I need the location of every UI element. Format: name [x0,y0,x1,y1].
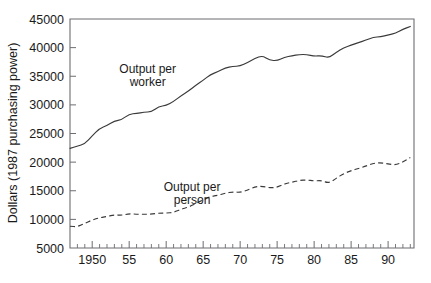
x-tick-label: 60 [159,253,173,267]
x-axis-tick-labels: 19505560657075808590 [78,253,395,267]
series-line-output-per-person [70,158,410,227]
series-annotations: Output perworkerOutput perperson [119,62,220,208]
y-tick-label: 5000 [36,242,64,256]
line-chart: 5000100001500020000250003000035000400004… [0,0,431,283]
y-tick-label: 15000 [29,184,64,198]
y-axis-ticks [70,48,76,220]
x-tick-label: 70 [233,253,247,267]
annotation-output-per-person-line1: Output per [164,180,221,194]
x-tick-label: 1950 [78,253,106,267]
annotation-output-per-worker-line1: Output per [119,62,176,76]
y-tick-label: 45000 [29,13,64,27]
y-tick-label: 10000 [29,213,64,227]
faded-header-text [0,0,431,9]
y-tick-label: 30000 [29,98,64,112]
x-tick-label: 75 [270,253,284,267]
x-tick-label: 90 [381,253,395,267]
axes-border [70,19,414,248]
x-axis-minor-ticks [77,244,410,248]
data-series-layer [70,26,410,226]
x-tick-label: 55 [122,253,136,267]
y-tick-label: 20000 [29,156,64,170]
y-axis-tick-labels: 5000100001500020000250003000035000400004… [29,13,64,256]
chart-figure: 5000100001500020000250003000035000400004… [0,0,431,283]
x-tick-label: 80 [307,253,321,267]
x-tick-label: 85 [344,253,358,267]
y-tick-label: 25000 [29,127,64,141]
plot-frame [70,19,414,248]
y-tick-label: 35000 [29,70,64,84]
annotation-output-per-worker-line2: worker [129,75,166,89]
y-axis-title: Dollars (1987 purchasing power) [6,43,20,224]
y-tick-label: 40000 [29,41,64,55]
series-line-output-per-worker [70,26,410,148]
annotation-output-per-person-line2: person [174,193,211,207]
x-tick-label: 65 [196,253,210,267]
